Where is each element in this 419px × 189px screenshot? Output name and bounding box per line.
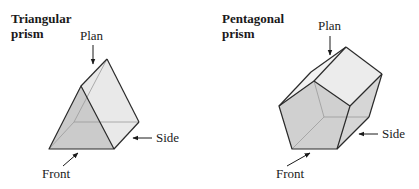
pent-side-label: Side <box>382 126 405 141</box>
tri-front-arrow-icon <box>63 153 78 166</box>
tri-plan-label: Plan <box>80 28 104 43</box>
pentagonal-prism: Plan Side Front <box>276 18 405 181</box>
pent-front-arrow-icon <box>287 153 310 166</box>
pent-front-label: Front <box>276 166 305 181</box>
tri-side-label: Side <box>156 130 179 145</box>
tri-front-label: Front <box>42 166 71 181</box>
pent-plan-label: Plan <box>318 18 342 33</box>
diagram-canvas: Plan Side Front <box>0 0 419 189</box>
triangular-prism: Plan Side Front <box>42 28 179 181</box>
